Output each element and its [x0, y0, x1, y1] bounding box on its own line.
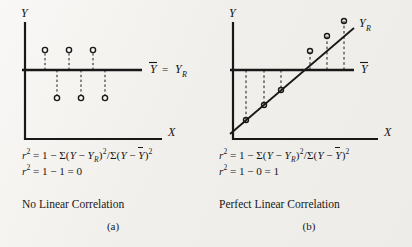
regression-line-label-b: Y R	[359, 16, 371, 33]
eq-a2-a: 1	[42, 165, 48, 177]
equation-a-line2: r2=1−1=0	[0, 164, 206, 180]
eq-a1-one: 1	[42, 149, 48, 161]
eq-b1-sigma: Σ	[256, 149, 263, 161]
eq-b1-one: 1	[239, 149, 245, 161]
regression-label-b-yr-sub: R	[365, 24, 371, 33]
data-point-a	[42, 47, 47, 52]
eq-a1-Ybar: Y	[138, 148, 144, 164]
eq-a2-result: 0	[76, 165, 82, 177]
x-axis-label-a: X	[167, 125, 176, 139]
eq-b1-denexp: 2	[346, 147, 350, 156]
chart-a-svg: Y X Y = Y R	[0, 0, 206, 150]
chart-a: Y X Y = Y R	[0, 0, 206, 150]
caption-a: No Linear Correlation	[0, 198, 228, 210]
mean-line-label-a: Y = Y R	[149, 62, 187, 79]
sublabel-a: (a)	[0, 220, 216, 232]
data-point-a	[54, 95, 59, 100]
data-point-a	[102, 95, 107, 100]
x-axis-label-b: X	[383, 125, 392, 139]
eq-a1-Y2: Y	[120, 149, 126, 161]
figure-page: Y X Y = Y R r2=1−Σ(Y−YR)2/Σ(Y−Y)2 r2=1−1…	[0, 0, 412, 247]
equations-b: r2=1−Σ(Y−YR)2/Σ(Y−Y)2 r2=1−0=1	[206, 148, 412, 180]
eq-a1-minus: −	[48, 149, 59, 161]
eq-b2-equals: =	[227, 165, 238, 177]
eq-b1-minus: −	[245, 149, 256, 161]
eq-a2-equals2: =	[65, 165, 76, 177]
eq-a1-sigma: Σ	[59, 149, 66, 161]
eq-b1-sigma2: Σ	[307, 149, 314, 161]
y-axis-label-a: Y	[21, 6, 29, 20]
equation-b-line2: r2=1−0=1	[206, 164, 412, 180]
eq-b2-result: 1	[273, 165, 279, 177]
eq-b1-Y2: Y	[317, 149, 323, 161]
eq-b1-equals: =	[227, 149, 238, 161]
mean-line-label-a-yr-sub: R	[181, 70, 187, 79]
panel-a: Y X Y = Y R r2=1−Σ(Y−YR)2/Σ(Y−Y)2 r2=1−1…	[0, 0, 206, 247]
eq-a1-denexp: 2	[149, 147, 153, 156]
data-point-a	[90, 47, 95, 52]
eq-b1-denmin: −	[324, 149, 335, 161]
mean-line-label-b: Y	[360, 62, 369, 76]
eq-b1-nummin: −	[273, 149, 284, 161]
eq-b2-a: 1	[239, 165, 245, 177]
eq-b1-Ybar: Y	[335, 148, 341, 164]
eq-a1-equals: =	[30, 149, 41, 161]
data-point-a	[78, 95, 83, 100]
chart-b: Y X Y R Y	[206, 0, 412, 150]
eq-a2-minus: −	[48, 165, 59, 177]
equation-b-line1: r2=1−Σ(Y−YR)2/Σ(Y−Y)2	[206, 148, 412, 164]
eq-b2-minus: −	[245, 165, 256, 177]
sublabel-b: (b)	[206, 220, 412, 232]
eq-a2-equals: =	[30, 165, 41, 177]
eq-b2-equals2: =	[262, 165, 273, 177]
y-axis-label-b: Y	[229, 6, 237, 20]
panel-b: Y X Y R Y r2=1−Σ(Y−YR)2/Σ(Y−Y)2	[206, 0, 412, 247]
equation-a-line1: r2=1−Σ(Y−YR)2/Σ(Y−Y)2	[0, 148, 206, 164]
data-point-a	[66, 47, 71, 52]
mean-line-label-a-ybar: Y	[150, 62, 158, 76]
caption-b: Perfect Linear Correlation	[206, 198, 412, 210]
mean-line-label-b-ybar: Y	[361, 62, 369, 76]
mean-line-equals-a: =	[162, 63, 168, 75]
chart-b-svg: Y X Y R Y	[206, 0, 412, 150]
equations-a: r2=1−Σ(Y−YR)2/Σ(Y−Y)2 r2=1−1=0	[0, 148, 206, 180]
eq-a1-denmin: −	[127, 149, 138, 161]
regression-line-b	[230, 28, 354, 134]
eq-a1-nummin: −	[76, 149, 87, 161]
eq-a1-sigma2: Σ	[110, 149, 117, 161]
